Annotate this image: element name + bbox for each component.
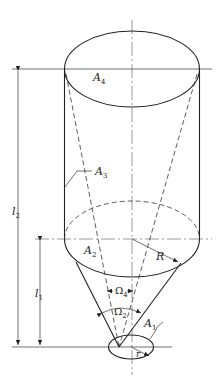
label-r: r <box>136 349 141 359</box>
label-a4: A4 <box>92 71 106 86</box>
dashed-ray-left <box>66 74 119 347</box>
silo-hopper-diagram: A4 A3 A2 R Ω4 Ω2 A1 r l2 l1 <box>0 0 222 385</box>
label-l2: l2 <box>12 205 20 220</box>
label-a3: A3 <box>94 165 107 180</box>
dashed-ray-right <box>119 74 197 347</box>
label-a1: A1 <box>143 317 156 332</box>
label-l1: l1 <box>35 287 43 302</box>
cone-left-edge <box>76 262 119 347</box>
label-R: R <box>155 250 164 263</box>
a3-leader <box>65 171 92 187</box>
radius-R-arrow <box>132 239 178 262</box>
label-omega4: Ω4 <box>115 285 128 299</box>
label-a2: A2 <box>83 244 96 259</box>
